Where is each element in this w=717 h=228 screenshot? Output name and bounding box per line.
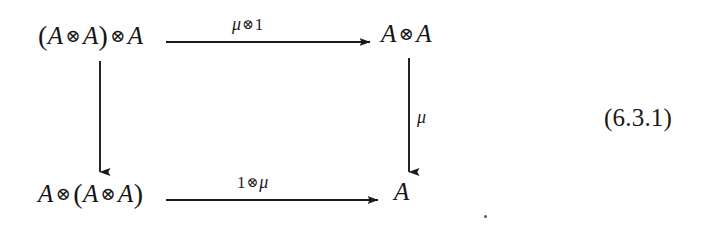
tensor-icon: ⊗ [108, 26, 127, 46]
diagram-page: (A⊗A)⊗A A⊗A A⊗(A⊗A) A μ⊗1 1⊗μ μ (6.3.1) [0, 0, 717, 228]
node-bl-open-paren: ( [73, 178, 83, 209]
node-bl-a1: A [38, 180, 54, 207]
node-bl-a3: A [118, 180, 134, 207]
tensor-icon: ⊗ [397, 24, 416, 44]
tensor-icon: ⊗ [99, 184, 118, 204]
node-tr-a2: A [416, 20, 432, 47]
arrow-label-bottom: 1⊗μ [237, 173, 268, 191]
node-bottom-left: A⊗(A⊗A) [38, 179, 143, 207]
node-bl-close-paren: ) [134, 178, 144, 209]
mu-glyph: μ [232, 14, 241, 34]
one-glyph: 1 [255, 15, 264, 34]
scan-speck [484, 215, 487, 218]
arrow-label-right: μ [417, 108, 426, 126]
node-br-a1: A [394, 178, 410, 205]
node-tl-a2: A [83, 22, 99, 49]
tensor-icon: ⊗ [246, 175, 260, 190]
arrow-label-top: μ⊗1 [232, 15, 263, 33]
mu-glyph: μ [417, 107, 426, 127]
tensor-icon: ⊗ [241, 17, 255, 32]
node-bottom-right: A [394, 179, 410, 204]
mu-glyph: μ [259, 172, 268, 192]
node-tl-a3: A [128, 22, 144, 49]
tensor-icon: ⊗ [63, 26, 82, 46]
equation-number: (6.3.1) [604, 105, 672, 130]
node-top-left: (A⊗A)⊗A [38, 21, 143, 49]
node-bl-a2: A [83, 180, 99, 207]
tensor-icon: ⊗ [54, 184, 73, 204]
node-tl-open-paren: ( [38, 20, 48, 51]
node-tl-close-paren: ) [99, 20, 109, 51]
node-tr-a1: A [381, 20, 397, 47]
node-tl-a1: A [48, 22, 64, 49]
one-glyph: 1 [237, 173, 246, 192]
node-top-right: A⊗A [381, 21, 432, 46]
